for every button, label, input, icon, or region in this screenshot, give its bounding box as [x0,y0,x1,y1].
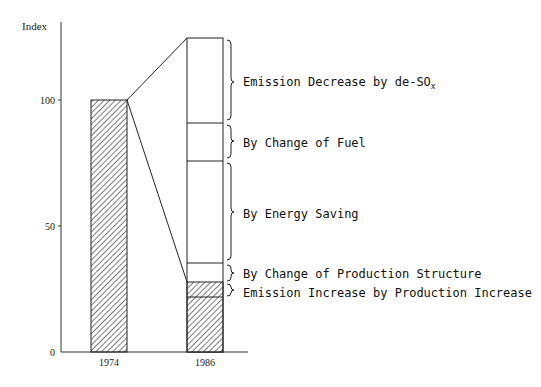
chart: Index 100 50 0 1974 1986 Emission Decrea… [0,0,541,387]
bar-1986 [187,38,223,352]
x-tick-1974: 1974 [99,357,119,368]
bar-1974 [91,100,127,352]
y-tick-50: 50 [45,221,55,232]
label-increase: Emission Increase by Production Increase [243,286,532,300]
brace-structure [227,265,234,281]
y-axis-label: Index [22,20,48,32]
label-energy: By Energy Saving [243,207,359,221]
label-structure: By Change of Production Structure [243,267,481,281]
brace-fuel [227,125,234,158]
brace-energy [227,163,234,260]
brace-increase [227,284,234,296]
y-tick-0: 0 [50,347,55,358]
label-fuel: By Change of Fuel [243,136,366,150]
y-tick-100: 100 [40,95,55,106]
connector-top [127,38,187,100]
brace-desox [227,40,234,120]
label-desox: Emission Decrease by de-SOx [243,75,436,91]
x-tick-1986: 1986 [195,357,215,368]
brace-group [227,40,234,296]
connector-bottom [127,100,187,282]
